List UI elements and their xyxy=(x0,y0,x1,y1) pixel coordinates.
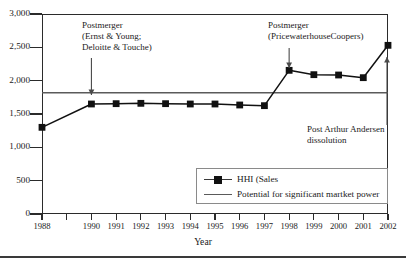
chart-figure: 05001,0001,5002,0002,5003,000 1988199019… xyxy=(0,0,406,270)
x-axis-tick xyxy=(91,214,92,220)
annotation-line: Deloitte & Touche) xyxy=(82,42,152,53)
y-axis-tick-label: 3,000 xyxy=(0,9,30,18)
chart-legend: HHI (Sales Potential for significant mar… xyxy=(196,168,388,204)
annotation-post-arthur-andersen: Post Arthur Andersen dissolution xyxy=(307,124,385,146)
x-axis-tick xyxy=(313,214,314,220)
x-axis-tick xyxy=(289,214,290,220)
legend-label: HHI (Sales xyxy=(237,174,278,185)
y-axis-tick xyxy=(30,147,42,148)
annotation-line: dissolution xyxy=(307,135,385,146)
y-axis-tick-label: 2,000 xyxy=(0,76,30,85)
x-axis-tick xyxy=(41,214,42,220)
y-axis-tick-label: 1,500 xyxy=(0,109,30,118)
legend-key-plain-line-icon xyxy=(202,189,234,201)
y-axis-tick xyxy=(30,213,42,214)
x-axis-tick xyxy=(264,214,265,220)
annotation-line: Postmerger xyxy=(268,20,363,31)
annotation-line: (PricewaterhouseCoopers) xyxy=(268,31,363,42)
plot-frame-top-edge xyxy=(42,14,388,15)
y-axis-tick xyxy=(30,47,42,48)
legend-label: Potential for significant martket power xyxy=(237,189,379,200)
x-axis-title: Year xyxy=(0,236,406,247)
x-axis-tick xyxy=(190,214,191,220)
bottom-divider xyxy=(0,256,406,258)
x-axis-tick-label: 1988 xyxy=(25,222,59,231)
legend-item-hhi: HHI (Sales xyxy=(202,172,382,187)
y-axis-tick xyxy=(30,13,42,14)
x-axis-tick xyxy=(116,214,117,220)
legend-key-line-square-icon xyxy=(202,174,234,186)
x-axis-tick xyxy=(140,214,141,220)
y-axis-tick-label: 500 xyxy=(0,176,30,185)
y-axis-tick xyxy=(30,113,42,114)
y-axis-tick-label: 2,500 xyxy=(0,42,30,51)
x-axis-tick xyxy=(165,214,166,220)
x-axis-tick xyxy=(66,214,67,220)
x-axis-tick xyxy=(239,214,240,220)
y-axis-tick xyxy=(30,80,42,81)
legend-item-threshold: Potential for significant martket power xyxy=(202,187,382,202)
annotation-line: Post Arthur Andersen xyxy=(307,124,385,135)
x-axis-tick xyxy=(363,214,364,220)
annotation-line: Postmerger xyxy=(82,20,152,31)
y-axis-tick-label: 0 xyxy=(0,209,30,218)
x-axis-tick xyxy=(387,214,388,220)
annotation-postmerger-ey-dt: Postmerger (Ernst & Young; Deloitte & To… xyxy=(82,20,152,54)
y-axis-tick-label: 1,000 xyxy=(0,142,30,151)
x-axis-tick-label: 2002 xyxy=(371,222,405,231)
x-axis-tick xyxy=(338,214,339,220)
x-axis-tick xyxy=(214,214,215,220)
annotation-postmerger-pwc: Postmerger (PricewaterhouseCoopers) xyxy=(268,20,363,42)
annotation-line: (Ernst & Young; xyxy=(82,31,152,42)
y-axis-tick xyxy=(30,180,42,181)
